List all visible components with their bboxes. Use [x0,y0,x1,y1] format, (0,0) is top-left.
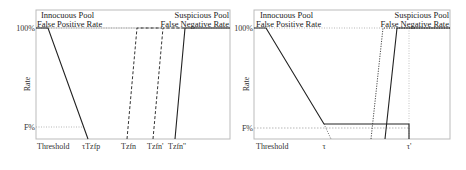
right-fpr-line [254,28,324,124]
right-tick-tau: τ [322,142,326,151]
left-tick-tzfp: τTzfp [82,142,100,151]
right-yF: F% [242,124,253,133]
left-chart: Innocuous Pool False Positive Rate Suspi… [16,10,230,151]
left-fnr-tzfn2 [175,28,230,139]
left-tick-tzfn: Tzfn [121,142,136,151]
right-plateau [324,124,409,139]
right-y100: 100% [234,24,253,33]
left-ylabel: Rate [23,76,32,91]
right-tick-tau-prime: τ' [407,142,412,151]
right-rate-left: False Positive Rate [256,19,321,29]
left-tick-tzfn2: Tzfn'' [168,142,187,151]
left-tick-tzfn1: Tzfn' [147,142,164,151]
left-fpr-line [36,28,88,139]
left-rate-right: False Negative Rate [161,19,230,29]
left-rate-left: False Positive Rate [37,19,102,29]
right-fpr-extrap [324,124,331,139]
right-frame [254,10,450,139]
left-y100: 100% [16,24,35,33]
figure: Innocuous Pool False Positive Rate Suspi… [0,0,466,170]
left-fnr-tzfn [127,28,162,139]
right-rate-right: False Negative Rate [381,19,450,29]
right-xlabel: Threshold [256,142,288,151]
left-xlabel: Threshold [37,142,69,151]
right-fnr-dotted [371,28,450,139]
right-chart: Innocuous Pool False Positive Rate Suspi… [234,10,450,151]
right-ylabel: Rate [242,76,251,91]
right-fnr-line [385,28,450,139]
left-yF: F% [24,123,35,132]
